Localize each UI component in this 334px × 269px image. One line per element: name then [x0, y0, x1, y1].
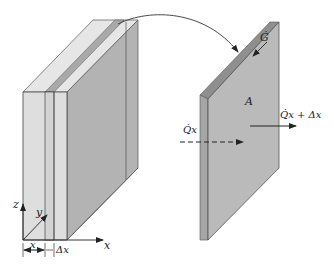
x-axis-label: x [104, 239, 111, 252]
flux-in-label: Q̇x [183, 124, 197, 135]
area-label: A [244, 95, 253, 108]
diagram-svg: z y x x Δx Ġ A Q̇x + Δx [0, 0, 334, 269]
generation-label: Ġ [260, 30, 269, 44]
diagram-stage: z y x x Δx Ġ A Q̇x + Δx [0, 0, 334, 269]
flux-out-label: Q̇x + Δx [280, 109, 322, 120]
dimension-dx-label: Δx [55, 244, 69, 255]
plate-side-edge [200, 95, 208, 240]
control-volume-plate [200, 22, 279, 240]
y-axis-label: y [35, 206, 43, 219]
dimension-x-label: x [30, 239, 36, 250]
z-axis-label: z [12, 198, 19, 211]
control-volume-slice [45, 92, 54, 240]
dimension-markers: x Δx [23, 239, 69, 257]
